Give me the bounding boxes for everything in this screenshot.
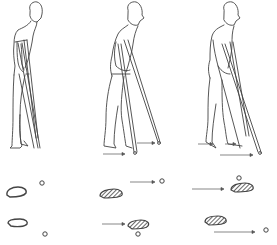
footprint-bottom [8, 219, 27, 227]
arrow-top [192, 188, 224, 191]
illustration-svg [0, 0, 277, 245]
footprint-bottom [205, 216, 226, 225]
arrow-top [130, 181, 155, 184]
arrow-bottom [102, 223, 125, 226]
arrow-stage-3-front-foot [225, 143, 236, 146]
figure-stage-1 [10, 2, 42, 148]
footprint-top [100, 189, 122, 198]
footprint-top [231, 183, 253, 192]
gait-diagram-stage-1 [7, 181, 47, 236]
crutch-tip-top [160, 179, 164, 183]
arrow-stage-3-back-foot [198, 143, 213, 146]
crutch-tip-top [237, 176, 241, 180]
gait-diagram-stage-3 [192, 176, 268, 234]
arrow-bottom [214, 231, 255, 234]
arrow-stage-2-crutch [137, 142, 155, 145]
footprint-top [7, 187, 26, 197]
gait-diagram-stage-2 [100, 179, 164, 236]
crutch-tip-bottom [264, 228, 268, 232]
crutch-tip-bottom [136, 232, 140, 236]
footprint-bottom [128, 220, 149, 229]
arrow-stage-2-foot [103, 153, 125, 156]
arrow-stage-3-crutch [220, 154, 253, 157]
crutch-gait-illustration [0, 0, 277, 245]
figure-stage-3 [206, 2, 261, 155]
figure-stage-2 [104, 2, 160, 155]
crutch-tip-top [40, 181, 44, 185]
crutch-tip-bottom [43, 232, 47, 236]
